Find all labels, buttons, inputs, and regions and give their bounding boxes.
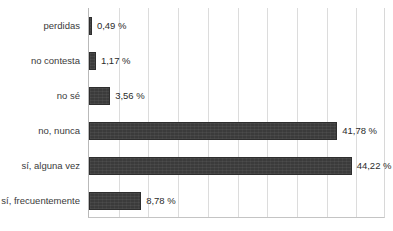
category-label: sí, alguna vez — [0, 157, 84, 175]
bar-row: 44,22 % — [89, 157, 384, 175]
category-label: no sé — [0, 87, 84, 105]
bar — [89, 87, 110, 105]
bar-row: 41,78 % — [89, 122, 384, 140]
bar-chart-figure: perdidasno contestano séno, nuncasí, alg… — [0, 0, 393, 231]
bar-value-label: 3,56 % — [110, 87, 145, 105]
bar-row: 3,56 % — [89, 87, 384, 105]
category-label: no contesta — [0, 52, 84, 70]
bar-value-label: 44,22 % — [352, 157, 392, 175]
category-label: perdidas — [0, 17, 84, 35]
bar-value-label: 0,49 % — [92, 17, 127, 35]
category-label: sí, frecuentemente — [0, 192, 84, 210]
bar-row: 1,17 % — [89, 52, 384, 70]
bar — [89, 122, 337, 140]
bar — [89, 52, 96, 70]
bar-row: 8,78 % — [89, 192, 384, 210]
bar-value-label: 1,17 % — [96, 52, 131, 70]
bar-value-label: 8,78 % — [141, 192, 176, 210]
bar-row: 0,49 % — [89, 17, 384, 35]
bars-layer: 0,49 %1,17 %3,56 %41,78 %44,22 %8,78 % — [89, 8, 384, 217]
category-label: no, nunca — [0, 122, 84, 140]
bar-value-label: 41,78 % — [337, 122, 377, 140]
bar — [89, 157, 352, 175]
bar — [89, 192, 141, 210]
plot-area: 0,49 %1,17 %3,56 %41,78 %44,22 %8,78 % — [88, 8, 385, 218]
category-axis-labels: perdidasno contestano séno, nuncasí, alg… — [0, 8, 84, 218]
